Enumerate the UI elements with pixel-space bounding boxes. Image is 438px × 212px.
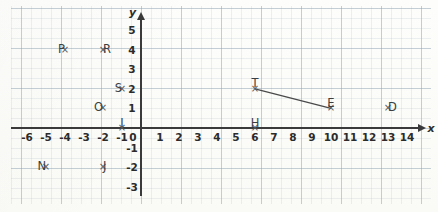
x-tick-label: 4: [213, 131, 220, 143]
x-tick-label: -3: [78, 131, 90, 143]
x-tick-label: -4: [59, 131, 71, 143]
point-label-n: N: [37, 161, 46, 173]
plotted-point-h[interactable]: ×H: [249, 122, 261, 134]
point-label-s: S: [115, 83, 122, 95]
y-tick-label: -2: [126, 161, 138, 173]
segment-TE: [255, 89, 331, 109]
plotted-point-i[interactable]: ×I: [116, 122, 128, 134]
point-label-e: E: [327, 98, 334, 110]
x-tick-label: -2: [97, 131, 109, 143]
plotted-point-o[interactable]: ×O: [97, 102, 109, 114]
plotted-point-s[interactable]: ×S: [116, 83, 128, 95]
x-tick-label: 8: [289, 131, 296, 143]
y-tick-label: 1: [128, 102, 135, 114]
x-tick-label: 13: [381, 131, 396, 143]
x-tick-label: 3: [194, 131, 201, 143]
plotted-point-d[interactable]: ×D: [382, 102, 394, 114]
x-tick-label: 14: [400, 131, 415, 143]
y-tick-label: 3: [128, 63, 135, 75]
point-label-r: R: [103, 44, 111, 56]
y-tick-label: 4: [128, 44, 135, 56]
x-tick-label: -5: [40, 131, 52, 143]
x-tick-label: 9: [308, 131, 315, 143]
segment-layer: [0, 0, 438, 212]
point-label-d: D: [388, 103, 397, 115]
x-tick-label: 2: [175, 131, 182, 143]
point-label-h: H: [251, 118, 260, 130]
y-tick-label: 5: [128, 24, 135, 36]
y-tick-label: -1: [126, 142, 138, 154]
plotted-point-n[interactable]: ×N: [40, 161, 52, 173]
x-tick-label: 7: [270, 131, 277, 143]
point-label-o: O: [94, 103, 103, 115]
x-tick-label: 1: [156, 131, 163, 143]
plotted-point-e[interactable]: ×E: [325, 102, 337, 114]
point-label-i: I: [120, 118, 123, 130]
plot-area: x y -6-5-4-3-2-1012345678910111213145432…: [0, 0, 438, 212]
point-label-j: J: [103, 161, 106, 173]
point-label-t: T: [251, 78, 258, 90]
x-tick-label: 11: [343, 131, 358, 143]
y-tick-label: -3: [126, 181, 138, 193]
x-tick-label: -6: [21, 131, 33, 143]
plotted-point-r[interactable]: ×R: [97, 44, 109, 56]
x-tick-label: 5: [232, 131, 239, 143]
x-tick-label: 12: [362, 131, 377, 143]
x-tick-label: 10: [324, 131, 339, 143]
plotted-point-t[interactable]: ×T: [249, 83, 261, 95]
point-label-p: P: [58, 44, 65, 56]
y-tick-label: 2: [128, 83, 135, 95]
coordinate-plane-screenshot: x y -6-5-4-3-2-1012345678910111213145432…: [0, 0, 438, 212]
plotted-point-j[interactable]: ×J: [97, 161, 109, 173]
plotted-point-p[interactable]: ×P: [59, 44, 71, 56]
